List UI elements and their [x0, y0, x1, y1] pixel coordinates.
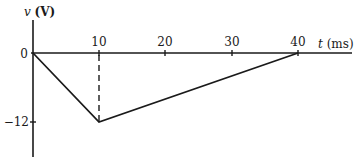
- voltage-chart: v (V) t (ms) 10 20 30 40 0 −12: [0, 0, 357, 163]
- y-tick-label-0: 0: [20, 47, 28, 61]
- y-tick-label-minus-12: −12: [4, 115, 29, 129]
- x-tick-label-40: 40: [290, 35, 305, 49]
- y-axis-label: v (V): [24, 5, 55, 19]
- x-axis-label: t (ms): [318, 37, 354, 51]
- x-tick-label-30: 30: [224, 35, 239, 49]
- x-tick-label-20: 20: [157, 35, 172, 49]
- voltage-waveform: [33, 53, 298, 122]
- x-tick-label-10: 10: [91, 35, 106, 49]
